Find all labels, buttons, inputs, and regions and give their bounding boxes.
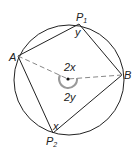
angle-arc-center [59,75,77,88]
label-B: B [124,69,131,81]
angle-label-P1: y [74,26,82,38]
segment-P1-B [79,24,122,75]
segment-B-P2 [53,75,122,133]
angle-label-center-lower: 2y [63,91,77,103]
center-point [66,77,69,80]
label-A: A [8,51,16,63]
label-P1: P1 [76,11,87,24]
segment-P2-A [18,56,53,133]
angle-label-P2: x [52,120,59,132]
label-P2: P2 [46,135,57,148]
angle-label-center-upper: 2x [63,61,76,73]
circle-theorem-diagram: A B P1 P2 y x 2x 2y [0,0,138,156]
